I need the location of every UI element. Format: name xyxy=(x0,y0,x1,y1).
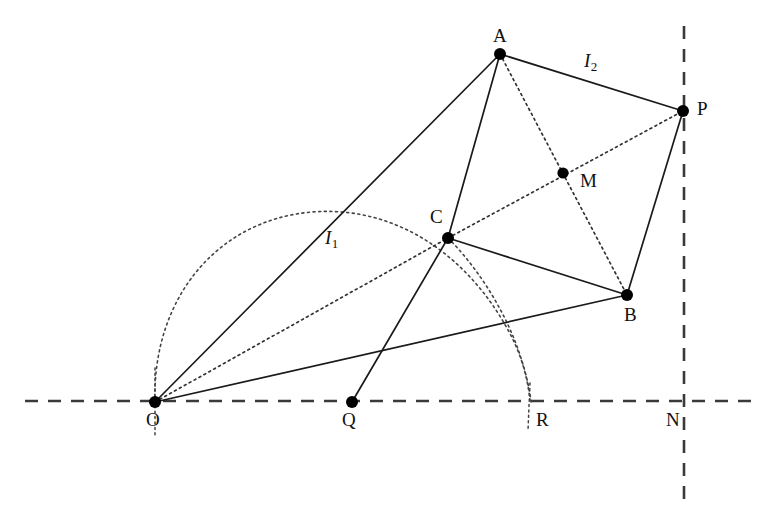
segment-label-i2-base: I xyxy=(584,50,590,71)
vertex-q xyxy=(346,396,358,408)
dotted-segments xyxy=(155,54,683,402)
point-label-c: C xyxy=(430,207,443,226)
segment-o-b xyxy=(155,295,627,402)
dashed-axes xyxy=(25,26,752,503)
point-label-n: N xyxy=(666,410,680,429)
dotted-arcs xyxy=(155,211,531,402)
point-label-r: R xyxy=(536,410,549,429)
segment-label-i1-sub: 1 xyxy=(332,236,339,251)
vertex-o xyxy=(149,396,161,408)
segment-p-b xyxy=(627,111,683,295)
segment-label-i1-base: I xyxy=(325,227,331,248)
vertex-markers xyxy=(149,48,689,408)
segment-a-c xyxy=(448,54,500,238)
segment-q-c xyxy=(352,238,448,402)
point-label-b: B xyxy=(624,305,637,324)
point-label-m: M xyxy=(580,171,597,190)
vertex-c xyxy=(442,232,454,244)
geometry-figure: A P M C B O Q R N I1 I2 xyxy=(0,0,767,529)
point-label-a: A xyxy=(493,26,507,45)
vertex-a xyxy=(494,48,506,60)
solid-segments xyxy=(155,54,683,402)
vertex-m xyxy=(557,167,568,178)
point-label-q: Q xyxy=(342,410,356,429)
segment-label-i2: I2 xyxy=(584,51,597,73)
vertex-b xyxy=(621,289,633,301)
vertex-p xyxy=(677,105,689,117)
segment-o-c xyxy=(155,238,448,402)
segment-label-i2-sub: 2 xyxy=(591,59,598,74)
segment-label-i1: I1 xyxy=(325,228,338,250)
geometry-canvas xyxy=(0,0,767,529)
arc-o-c-r xyxy=(155,211,530,402)
segment-c-b xyxy=(448,238,627,295)
point-label-p: P xyxy=(697,99,708,118)
point-label-o: O xyxy=(146,410,160,429)
